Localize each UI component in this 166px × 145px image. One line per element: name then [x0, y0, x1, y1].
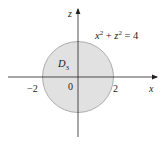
circle-equation: x2 + z2 = 4 [94, 29, 139, 41]
equation-equals: = 4 [122, 30, 139, 41]
diagram-canvas: z x x2 + z2 = 4 D3 0 −2 2 [0, 0, 166, 145]
x-axis-label: x [148, 83, 154, 94]
disk-diagram: z x x2 + z2 = 4 D3 0 −2 2 [0, 0, 166, 145]
region-label-subscript: 3 [66, 64, 70, 72]
tick-label-negative-two: −2 [27, 83, 38, 94]
z-axis-label: z [67, 8, 72, 19]
tick-label-positive-two: 2 [113, 83, 118, 94]
origin-label: 0 [68, 81, 73, 92]
equation-plus: + [103, 30, 114, 41]
